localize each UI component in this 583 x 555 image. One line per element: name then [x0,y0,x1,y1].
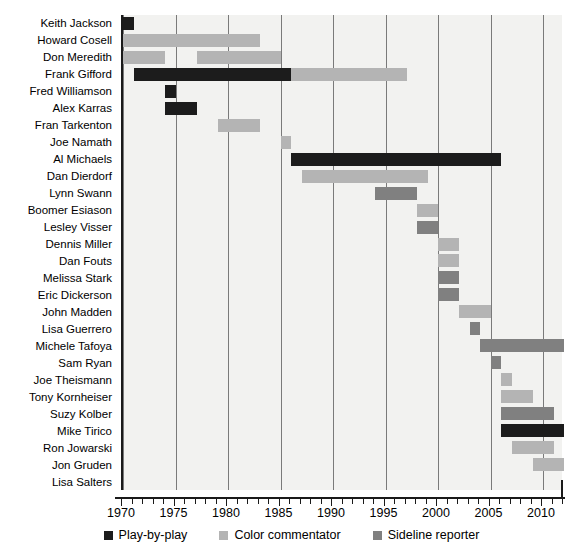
category-label-mike-tirico: Mike Tirico [57,425,112,437]
category-label-dennis-miller: Dennis Miller [46,238,112,250]
x-tick-label-2000: 2000 [422,506,450,520]
category-label-ron-jowarski: Ron Jowarski [43,442,112,454]
x-tick-label-2005: 2005 [475,506,503,520]
gantt-row [123,439,562,456]
x-tick-1972 [142,499,143,504]
legend-swatch-play-icon [104,531,113,540]
x-tick-2011 [552,499,553,504]
gantt-row [123,83,562,100]
x-tick-label-1970: 1970 [107,506,135,520]
x-tick-2012 [562,499,563,504]
category-label-fran-tarkenton: Fran Tarkenton [35,119,112,131]
category-label-dan-fouts: Dan Fouts [59,255,112,267]
x-tick-2007 [510,499,511,504]
category-label-boomer-esiason: Boomer Esiason [28,204,112,216]
gantt-bar[interactable] [438,288,459,301]
gantt-row [123,185,562,202]
category-label-lesley-visser: Lesley Visser [44,221,112,233]
gantt-bar[interactable] [501,424,564,437]
x-tick-1997 [405,499,406,504]
x-tick-1980 [226,499,227,506]
gantt-bar[interactable] [417,204,438,217]
x-tick-1996 [394,499,395,504]
x-tick-1989 [321,499,322,504]
gantt-bar[interactable] [134,68,292,81]
gantt-row [123,354,562,371]
category-label-jon-gruden: Jon Gruden [52,459,112,471]
gantt-bar[interactable] [438,254,459,267]
x-tick-label-1975: 1975 [160,506,188,520]
x-tick-1977 [195,499,196,504]
category-label-john-madden: John Madden [42,306,112,318]
legend-item-sideline[interactable]: Sideline reporter [373,528,480,542]
x-tick-label-1985: 1985 [265,506,293,520]
x-tick-2001 [447,499,448,504]
category-label-fred-williamson: Fred Williamson [30,85,112,97]
gantt-bar[interactable] [438,271,459,284]
gantt-bar[interactable] [218,119,260,132]
gantt-row [123,117,562,134]
x-tick-2005 [489,499,490,506]
gantt-bar[interactable] [417,221,438,234]
gantt-bar[interactable] [438,238,459,251]
x-tick-1984 [268,499,269,504]
gantt-bar[interactable] [123,34,260,47]
gantt-bar[interactable] [501,407,554,420]
gantt-bar[interactable] [512,441,554,454]
legend-item-color[interactable]: Color commentator [219,528,340,542]
gantt-bar[interactable] [302,170,428,183]
gantt-row [123,456,562,473]
x-tick-1995 [384,499,385,506]
x-tick-2003 [468,499,469,504]
gantt-row [123,286,562,303]
x-tick-1994 [373,499,374,504]
gantt-row [123,15,562,32]
gantt-bar[interactable] [291,153,501,166]
legend-swatch-color-icon [219,531,228,540]
gantt-bar[interactable] [491,356,502,369]
x-tick-1986 [289,499,290,504]
legend-swatch-sideline-icon [373,531,382,540]
gantt-bar[interactable] [533,458,565,471]
category-label-lisa-salters: Lisa Salters [52,476,112,488]
gantt-bar[interactable] [501,373,512,386]
gantt-bar[interactable] [375,187,417,200]
x-tick-label-1980: 1980 [212,506,240,520]
x-tick-label-2010: 2010 [527,506,555,520]
gantt-bar[interactable] [480,339,564,352]
gantt-row [123,405,562,422]
gantt-bar[interactable] [197,51,281,64]
gantt-chart: Keith JacksonHoward CosellDon MeredithFr… [0,0,583,555]
gantt-bar[interactable] [501,390,533,403]
gantt-bar[interactable] [291,68,407,81]
category-label-suzy-kolber: Suzy Kolber [50,408,112,420]
category-label-joe-namath: Joe Namath [50,136,112,148]
x-tick-label-1990: 1990 [317,506,345,520]
gantt-row [123,337,562,354]
category-label-howard-cosell: Howard Cosell [37,34,112,46]
category-label-tony-kornheiser: Tony Kornheiser [29,391,112,403]
category-axis-labels: Keith JacksonHoward CosellDon MeredithFr… [0,15,118,490]
x-tick-1993 [363,499,364,504]
category-label-al-michaels: Al Michaels [53,153,112,165]
gantt-bar[interactable] [165,85,176,98]
legend-item-play[interactable]: Play-by-play [104,528,188,542]
x-tick-1981 [237,499,238,504]
gantt-bar[interactable] [165,102,197,115]
gantt-row [123,253,562,270]
x-tick-2008 [520,499,521,504]
category-label-alex-karras: Alex Karras [53,102,112,114]
x-tick-1978 [205,499,206,504]
gantt-row [123,49,562,66]
gantt-bar[interactable] [123,51,165,64]
gantt-bar[interactable] [470,322,481,335]
legend-label-sideline: Sideline reporter [388,528,480,542]
x-tick-1990 [331,499,332,506]
gantt-bar[interactable] [123,17,134,30]
gantt-bar[interactable] [459,305,491,318]
gantt-bar[interactable] [281,136,292,149]
legend-label-color: Color commentator [234,528,340,542]
gantt-row [123,422,562,439]
x-tick-1999 [426,499,427,504]
category-label-melissa-stark: Melissa Stark [43,272,112,284]
